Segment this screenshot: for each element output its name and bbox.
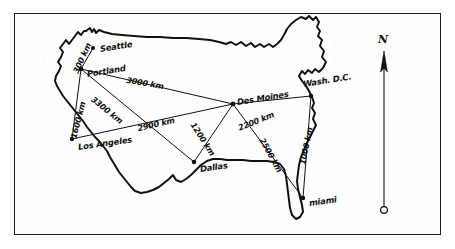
usa-coastline-path: [55, 16, 326, 219]
compass-base-circle: [381, 207, 388, 214]
city-dot-washingtondc: [309, 94, 313, 98]
map-figure: SeattlePortlandLos AngelesDes MoinesDall…: [0, 0, 455, 249]
city-dot-desmoines: [231, 102, 236, 107]
city-dot-miami: [301, 196, 305, 200]
compass-north-label: N: [378, 33, 388, 46]
city-dot-dallas: [192, 160, 196, 164]
compass-north-arrow: [381, 51, 388, 213]
